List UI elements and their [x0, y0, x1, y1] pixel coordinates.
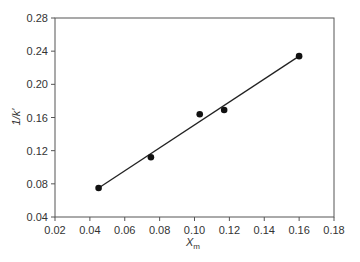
fit-line	[99, 56, 300, 188]
y-axis-label: 1/k'	[10, 108, 22, 126]
y-tick-label: 0.20	[27, 78, 48, 90]
y-tick-label: 0.04	[27, 211, 48, 223]
x-tick-label: 0.04	[79, 224, 100, 236]
y-tick-label: 0.08	[27, 178, 48, 190]
x-tick-label: 0.02	[44, 224, 65, 236]
x-tick-label: 0.16	[288, 224, 309, 236]
data-point	[296, 53, 303, 60]
x-tick-label: 0.12	[219, 224, 240, 236]
data-point	[148, 154, 155, 161]
y-tick-label: 0.24	[27, 45, 48, 57]
x-tick-label: 0.18	[323, 224, 344, 236]
y-tick-label: 0.16	[27, 112, 48, 124]
chart: 0.040.080.120.160.200.240.28 0.020.040.0…	[0, 0, 360, 262]
x-tick-label: 0.14	[254, 224, 275, 236]
x-tick-label: 0.06	[114, 224, 135, 236]
y-tick-label: 0.12	[27, 145, 48, 157]
y-axis-ticks: 0.040.080.120.160.200.240.28	[27, 12, 55, 223]
x-axis-label: Xm	[185, 236, 200, 251]
x-axis-ticks: 0.020.040.060.080.100.120.140.160.18	[44, 217, 344, 236]
data-point	[95, 185, 102, 192]
data-point	[196, 111, 203, 118]
x-tick-label: 0.10	[184, 224, 205, 236]
y-tick-label: 0.28	[27, 12, 48, 24]
data-point	[221, 107, 228, 114]
x-tick-label: 0.08	[149, 224, 170, 236]
